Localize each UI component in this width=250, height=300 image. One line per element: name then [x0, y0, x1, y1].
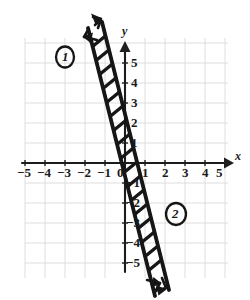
y-tick-label--1: −1 — [126, 176, 140, 189]
y-axis-label: y — [122, 25, 127, 37]
x-tick-label--5: −5 — [17, 166, 31, 179]
y-tick-label--5: −5 — [126, 256, 140, 269]
origin-label: 0 — [117, 166, 124, 179]
line-1-label: 1 — [62, 50, 69, 63]
y-tick-label-5: 5 — [131, 56, 138, 69]
y-tick-label-4: 4 — [131, 76, 138, 89]
x-axis-label: x — [235, 150, 241, 162]
x-tick-label--4: −4 — [37, 166, 51, 179]
line-2-top-arrowhead — [91, 14, 102, 29]
x-tick-label-2: 2 — [162, 166, 169, 179]
x-tick-label--3: −3 — [57, 166, 71, 179]
y-tick-label--2: −2 — [126, 196, 140, 209]
y-tick-label-3: 3 — [131, 96, 138, 109]
axis-lines — [22, 45, 226, 272]
x-tick-label--1: −1 — [97, 166, 111, 179]
coordinate-plane-svg — [0, 0, 250, 300]
x-tick-label-1: 1 — [142, 166, 149, 179]
x-axis-arrowhead — [224, 158, 234, 169]
line-2-label: 2 — [172, 207, 179, 220]
y-tick-label--4: −4 — [126, 236, 140, 249]
x-tick-label-3: 3 — [182, 166, 189, 179]
y-tick-label--3: −3 — [126, 216, 140, 229]
y-tick-label-2: 2 — [131, 116, 138, 129]
x-tick-label-4: 4 — [202, 166, 209, 179]
x-tick-label-5: 5 — [216, 166, 223, 179]
x-tick-label--2: −2 — [77, 166, 91, 179]
y-tick-label-1: 1 — [131, 136, 138, 149]
graph-figure: −5 −4 −3 −2 −1 1 2 3 4 5 0 5 4 3 2 1 −1 … — [0, 0, 250, 300]
